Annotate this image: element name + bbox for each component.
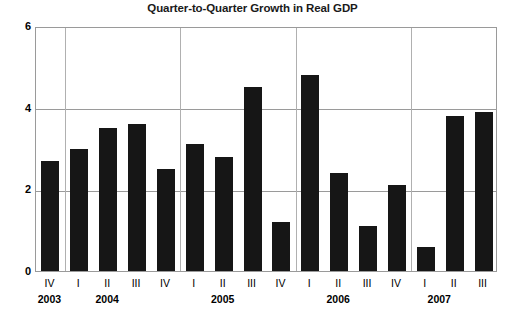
bar [186, 144, 204, 271]
bar [128, 124, 146, 271]
bar [417, 247, 435, 272]
x-axis-year-label: 2005 [193, 293, 253, 305]
bar [244, 87, 262, 271]
bar [359, 226, 377, 271]
bar [301, 75, 319, 271]
bar [330, 173, 348, 271]
bar [41, 161, 59, 271]
bar [215, 157, 233, 271]
y-tick-label: 0 [5, 265, 31, 277]
bar [272, 222, 290, 271]
bar-series [36, 28, 496, 271]
x-tick-label-quarter: III [463, 277, 503, 289]
x-axis-year-label: 2003 [19, 293, 79, 305]
bar [99, 128, 117, 271]
y-tick-label: 2 [5, 183, 31, 195]
bar [388, 185, 406, 271]
bar [157, 169, 175, 271]
chart-title: Quarter-to-Quarter Growth in Real GDP [0, 2, 505, 14]
y-tick-label: 6 [5, 20, 31, 32]
x-axis-year-label: 2004 [77, 293, 137, 305]
y-tick-label: 4 [5, 102, 31, 114]
bar [446, 116, 464, 271]
bar [475, 112, 493, 271]
x-axis-year-label: 2007 [409, 293, 469, 305]
chart-figure: Quarter-to-Quarter Growth in Real GDP Pe… [0, 0, 505, 321]
bar [70, 149, 88, 272]
x-axis-year-label: 2006 [308, 293, 368, 305]
plot-area [35, 27, 497, 272]
